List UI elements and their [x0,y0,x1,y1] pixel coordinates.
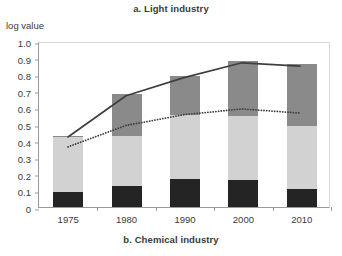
y-tick-label: 0.1 [18,187,39,198]
y-axis-label: log value [6,20,44,31]
y-tick-label: 0.9 [18,54,39,65]
chart-bottom-caption: b. Chemical industry [0,234,342,245]
y-tick-label: 0.3 [18,154,39,165]
solid-line [68,63,300,137]
chart-title: a. Light industry [0,3,342,14]
chart-figure: a. Light industry log value 1.00.90.80.7… [0,0,342,256]
y-tick-label: 0.6 [18,104,39,115]
x-tick-label: 1990 [174,214,195,225]
y-tick-label: 0.7 [18,87,39,98]
dotted-line [68,109,300,147]
overlay-lines [39,43,329,208]
y-tick-label: 0.5 [18,121,39,132]
x-tick-label: 1980 [116,214,137,225]
x-tick-mark [273,207,274,211]
x-tick-label: 2000 [233,214,254,225]
x-tick-mark [214,207,215,211]
x-tick-label: 1975 [58,214,79,225]
y-tick-label: 0.4 [18,137,39,148]
y-tick-label: 0 [26,204,39,215]
plot-area: 1.00.90.80.70.60.50.40.30.20.10 19751980… [38,42,330,208]
x-tick-label: 2010 [291,214,312,225]
x-tick-mark [97,207,98,211]
y-tick-label: 0.8 [18,71,39,82]
x-tick-mark [331,207,332,211]
y-tick-label: 0.2 [18,170,39,181]
y-tick-label: 1.0 [18,38,39,49]
x-tick-mark [156,207,157,211]
